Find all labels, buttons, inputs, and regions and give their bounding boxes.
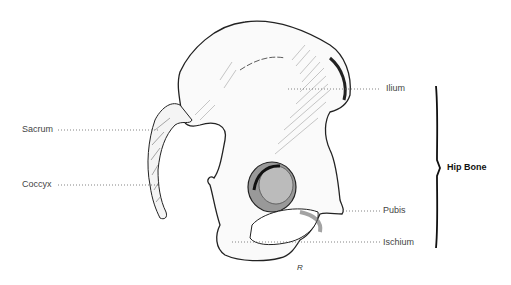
label-coccyx: Coccyx bbox=[22, 180, 52, 189]
label-ischium: Ischium bbox=[383, 238, 414, 247]
label-sacrum: Sacrum bbox=[22, 125, 53, 134]
sacrum-coccyx bbox=[148, 104, 192, 219]
hip-bone-illustration: R bbox=[0, 0, 511, 285]
artist-signature: R bbox=[297, 263, 303, 272]
hip-bone-bracket bbox=[436, 86, 440, 248]
label-hip-bone: Hip Bone bbox=[447, 163, 487, 172]
label-pubis: Pubis bbox=[383, 206, 406, 215]
label-ilium: Ilium bbox=[386, 84, 405, 93]
